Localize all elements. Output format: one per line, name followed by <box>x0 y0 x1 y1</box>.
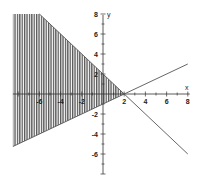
x-tick-label: 4 <box>143 98 147 105</box>
x-tick-label: 8 <box>186 98 190 105</box>
shaded-region <box>13 14 124 147</box>
chart-plot: -6-4-224688642-2-4-6xy <box>0 0 202 185</box>
y-tick-label: 2 <box>94 71 98 78</box>
hatched-area <box>13 14 124 147</box>
x-tick-label: -4 <box>57 98 63 105</box>
x-tick-label: 2 <box>122 98 126 105</box>
y-tick-label: 6 <box>94 31 98 38</box>
y-tick-label: -2 <box>92 111 98 118</box>
x-tick-label: -2 <box>79 98 85 105</box>
x-tick-label: -6 <box>36 98 42 105</box>
y-axis-label: y <box>107 11 111 19</box>
x-tick-label: 6 <box>165 98 169 105</box>
y-tick-label: 8 <box>94 11 98 18</box>
x-axis-label: x <box>185 84 189 91</box>
y-tick-label: -6 <box>92 151 98 158</box>
y-tick-label: -4 <box>92 131 98 138</box>
y-tick-label: 4 <box>94 51 98 58</box>
